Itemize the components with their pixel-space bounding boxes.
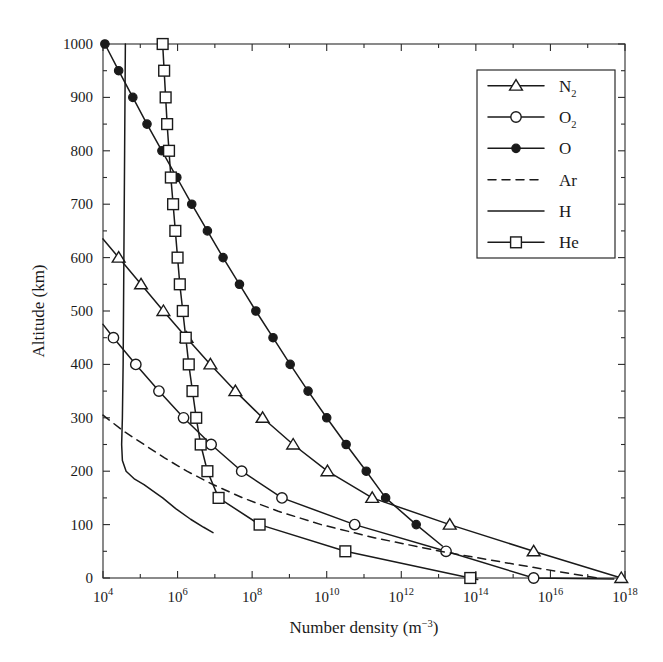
marker-He <box>213 493 224 504</box>
marker-O <box>304 387 312 395</box>
legend-marker-O <box>511 112 521 122</box>
marker-He <box>170 226 181 237</box>
marker-He <box>174 279 185 290</box>
marker-He <box>157 39 168 50</box>
marker-O <box>362 467 370 475</box>
y-tick-label: 200 <box>71 463 94 479</box>
marker-O <box>188 200 196 208</box>
y-tick-label: 600 <box>71 250 94 266</box>
marker-O2 <box>131 359 141 369</box>
marker-He <box>164 145 175 156</box>
legend-box <box>477 70 615 258</box>
marker-He <box>180 332 191 343</box>
y-tick-label: 1000 <box>63 36 93 52</box>
marker-He <box>165 172 176 183</box>
legend-label-Ar: Ar <box>559 171 577 190</box>
marker-O <box>143 120 151 128</box>
marker-He <box>202 466 213 477</box>
marker-He <box>340 546 351 557</box>
marker-He <box>177 306 188 317</box>
marker-O <box>286 360 294 368</box>
marker-O <box>219 253 227 261</box>
legend-marker-He <box>511 237 522 248</box>
marker-O2 <box>349 519 359 529</box>
marker-O <box>269 334 277 342</box>
marker-O <box>129 93 137 101</box>
marker-He <box>465 573 476 584</box>
marker-He <box>191 412 202 423</box>
marker-O <box>412 520 420 528</box>
marker-O <box>381 494 389 502</box>
marker-O <box>203 227 211 235</box>
marker-O2 <box>178 413 188 423</box>
marker-He <box>195 439 206 450</box>
y-tick-label: 700 <box>71 196 94 212</box>
legend-label-O: O <box>559 139 571 158</box>
y-tick-label: 300 <box>71 410 94 426</box>
y-axis-title: Altitude (km) <box>29 264 48 357</box>
marker-He <box>168 199 179 210</box>
marker-O <box>235 280 243 288</box>
legend-label-H: H <box>559 202 571 221</box>
marker-O <box>252 307 260 315</box>
chart-canvas: 10410610810101012101410161018 0100200300… <box>0 0 663 662</box>
marker-O <box>342 440 350 448</box>
chart-legend[interactable]: N2O2OArHHe <box>477 70 615 258</box>
legend-marker-O <box>512 144 520 152</box>
marker-He <box>254 519 265 530</box>
legend-label-He: He <box>559 233 579 252</box>
marker-O <box>323 414 331 422</box>
y-tick-label: 0 <box>86 570 94 586</box>
atmospheric-composition-figure: 10410610810101012101410161018 0100200300… <box>0 0 663 662</box>
marker-He <box>159 65 170 76</box>
y-tick-label: 900 <box>71 89 94 105</box>
x-axis-title: Number density (m−3) <box>289 618 438 637</box>
marker-O2 <box>277 493 287 503</box>
marker-O <box>101 40 109 48</box>
marker-O2 <box>154 386 164 396</box>
y-tick-label: 100 <box>71 517 94 533</box>
y-tick-label: 400 <box>71 356 94 372</box>
y-tick-label: 800 <box>71 143 94 159</box>
marker-He <box>160 92 171 103</box>
marker-O2 <box>237 466 247 476</box>
marker-O <box>114 67 122 75</box>
marker-He <box>183 359 194 370</box>
marker-O2 <box>528 573 538 583</box>
y-tick-label: 500 <box>71 303 94 319</box>
marker-O2 <box>108 333 118 343</box>
marker-He <box>172 252 183 263</box>
marker-He <box>187 386 198 397</box>
marker-O2 <box>206 439 216 449</box>
marker-He <box>162 119 173 130</box>
